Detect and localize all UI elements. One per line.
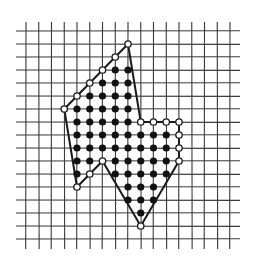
boundary-point-circle [99,158,105,164]
interior-point-dot [137,157,144,164]
interior-point-dot [112,157,119,164]
interior-point-dot [150,131,157,138]
interior-point-dot [150,144,157,151]
interior-point-dot [73,105,80,112]
boundary-point-circle [176,132,182,138]
interior-point-dot [73,131,80,138]
boundary-point-circle [61,106,67,112]
interior-point-dot [124,131,131,138]
interior-point-dot [163,131,170,138]
interior-point-dot [124,66,131,73]
boundary-point-circle [87,171,93,177]
interior-point-dot [163,170,170,177]
interior-point-dot [112,144,119,151]
interior-point-dot [99,144,106,151]
interior-point-dot [163,157,170,164]
boundary-point-circle [99,67,105,73]
interior-point-dot [86,131,93,138]
interior-point-dot [124,183,131,190]
interior-point-dot [124,118,131,125]
diagram-canvas [0,0,255,264]
boundary-point-circle [87,80,93,86]
interior-point-dot [124,144,131,151]
interior-point-dot [124,157,131,164]
boundary-point-circle [163,119,169,125]
interior-point-dot [112,66,119,73]
interior-point-dot [86,144,93,151]
boundary-point-circle [150,119,156,125]
interior-point-dot [124,196,131,203]
interior-point-dot [99,79,106,86]
interior-point-dot [137,131,144,138]
boundary-point-circle [125,41,131,47]
interior-point-dot [137,144,144,151]
interior-point-dot [73,157,80,164]
interior-point-dot [112,79,119,86]
interior-point-dot [112,92,119,99]
interior-point-dot [150,170,157,177]
interior-point-dot [137,209,144,216]
interior-point-dot [137,170,144,177]
boundary-point-circle [176,158,182,164]
interior-point-dot [99,92,106,99]
interior-point-dot [73,118,80,125]
interior-point-dot [73,144,80,151]
boundary-point-circle [74,93,80,99]
interior-point-dot [137,183,144,190]
lattice-polygon-figure [0,0,255,264]
interior-point-dot [99,118,106,125]
interior-point-dot [112,170,119,177]
boundary-point-circle [138,223,144,229]
interior-point-dot [86,105,93,112]
interior-point-dot [150,183,157,190]
interior-point-dot [99,105,106,112]
interior-point-dot [112,131,119,138]
interior-point-dot [86,92,93,99]
interior-point-dot [124,92,131,99]
interior-point-dot [112,118,119,125]
interior-point-dot [137,196,144,203]
interior-point-dot [150,196,157,203]
boundary-point-circle [138,119,144,125]
interior-point-dot [86,157,93,164]
interior-point-dot [124,105,131,112]
interior-point-dot [124,170,131,177]
boundary-point-circle [176,119,182,125]
interior-point-dot [112,105,119,112]
boundary-point-circle [176,145,182,151]
interior-point-dot [73,170,80,177]
interior-point-dot [163,144,170,151]
interior-point-dot [99,131,106,138]
boundary-point-circle [112,54,118,60]
interior-point-dot [150,157,157,164]
boundary-point-circle [74,184,80,190]
interior-point-dot [124,79,131,86]
interior-point-dot [86,118,93,125]
